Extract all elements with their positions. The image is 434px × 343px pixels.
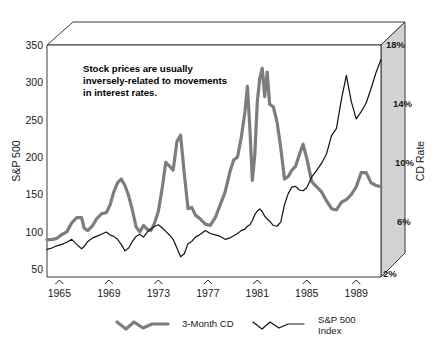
x-tick-label: 1973 <box>147 287 171 299</box>
x-tick-marker <box>303 280 311 284</box>
y2-tick-label: 2% <box>383 268 397 279</box>
annotation-line: Stock prices are usually <box>83 63 194 74</box>
y-tick-label: 250 <box>25 114 43 126</box>
x-tick-marker <box>352 280 360 284</box>
y-axis-right-title: CD Rate <box>414 141 426 181</box>
x-tick-label: 1969 <box>97 287 121 299</box>
y-tick-label: 150 <box>25 188 43 200</box>
y-tick-label: 350 <box>25 39 43 51</box>
legend-swatch-cd <box>117 322 168 329</box>
y-axis-left-title: S&P 500 <box>10 140 22 181</box>
x-tick-label: 1985 <box>295 287 319 299</box>
x-tick-label: 1981 <box>246 287 270 299</box>
legend-label-sp-2[interactable]: Index <box>318 325 342 336</box>
line-chart: 350 300 250 200 150 100 50 S&P 500 18% 1… <box>0 0 434 343</box>
x-tick-marker <box>105 280 113 284</box>
x-tick-label: 1965 <box>48 287 72 299</box>
y2-tick-label: 14% <box>393 98 413 109</box>
y-tick-label: 200 <box>25 151 43 163</box>
x-tick-marker <box>55 280 63 284</box>
x-tick-label: 1977 <box>196 287 220 299</box>
annotation-line: inversely-related to movements <box>83 75 227 86</box>
box-right-face <box>381 22 405 277</box>
annotation-line: in interest rates. <box>83 87 157 98</box>
x-tick-label: 1989 <box>345 287 369 299</box>
legend-label-sp[interactable]: S&P 500 <box>318 314 356 325</box>
x-tick-marker <box>154 280 162 284</box>
box-top-face <box>47 22 405 45</box>
x-axis: 1965196919731977198119851989 <box>48 280 368 299</box>
y-tick-label: 50 <box>31 263 43 275</box>
y2-tick-label: 6% <box>397 216 411 227</box>
y-tick-label: 100 <box>25 226 43 238</box>
x-tick-marker <box>204 280 212 284</box>
chart-container: 350 300 250 200 150 100 50 S&P 500 18% 1… <box>0 0 434 343</box>
y-axis-left: 350 300 250 200 150 100 50 S&P 500 <box>10 39 43 275</box>
y2-tick-label: 10% <box>395 157 415 168</box>
y2-tick-label: 18% <box>386 39 406 50</box>
y-tick-label: 300 <box>25 76 43 88</box>
chart-legend: 3-Month CD S&P 500 Index <box>117 314 356 336</box>
legend-swatch-sp <box>253 322 304 329</box>
x-tick-marker <box>253 280 261 284</box>
legend-label-cd[interactable]: 3-Month CD <box>182 318 234 329</box>
